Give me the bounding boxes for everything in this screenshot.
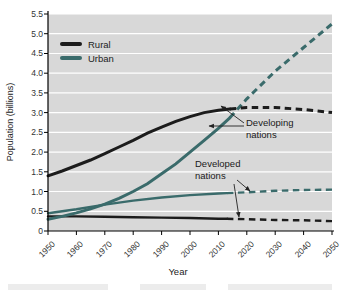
y-tick-label: 5.0: [23, 29, 43, 39]
y-tick-label: 0: [23, 226, 43, 236]
y-axis-title: Population (billions): [5, 72, 17, 172]
legend-label-urban: Urban: [88, 53, 114, 64]
x-axis-title: Year: [148, 266, 208, 277]
cropped-content-artifact: [228, 284, 332, 290]
legend: Rural Urban: [60, 37, 114, 65]
y-tick-label: 3.0: [23, 108, 43, 118]
annotation-developed-nations: Developed nations: [195, 158, 240, 182]
cropped-content-artifact: [140, 284, 206, 290]
y-tick-label: 5.5: [23, 9, 43, 19]
annotation-text: nations: [246, 129, 294, 141]
y-tick-label: 4.5: [23, 48, 43, 58]
y-tick-label: 2.0: [23, 147, 43, 157]
y-tick-label: 2.5: [23, 127, 43, 137]
rural-line-swatch: [60, 42, 82, 45]
cropped-content-artifact: [8, 284, 108, 290]
annotation-text: Developed: [195, 158, 240, 170]
y-tick-label: 1.0: [23, 187, 43, 197]
y-tick-label: 1.5: [23, 167, 43, 177]
annotation-developing-nations: Developing nations: [246, 117, 294, 141]
annotation-text: nations: [195, 170, 240, 182]
y-tick-label: 4.0: [23, 68, 43, 78]
y-tick-label: 0.5: [23, 206, 43, 216]
population-figure: Population (billions) Year Rural Urban D…: [0, 0, 340, 290]
legend-row-rural: Rural: [60, 37, 114, 51]
legend-label-rural: Rural: [88, 39, 111, 50]
legend-row-urban: Urban: [60, 51, 114, 65]
annotation-text: Developing: [246, 117, 294, 129]
y-tick-label: 3.5: [23, 88, 43, 98]
urban-line-swatch: [60, 56, 82, 59]
